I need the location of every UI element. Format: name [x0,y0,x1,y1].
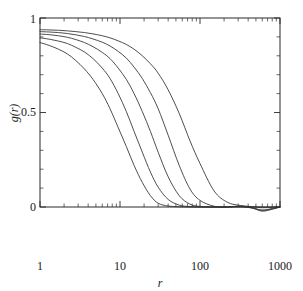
line-plot: 1 0.5 0 1 10 100 1000 r g(r) [0,0,303,291]
curve-5 [40,30,280,207]
curve-series-group [40,30,280,211]
ytick-label-1: 1 [30,12,36,26]
xtick-label-1: 1 [37,259,43,273]
y-axis-label: g(r) [7,104,21,123]
ytick-label-0: 0 [30,200,36,214]
xtick-label-10: 10 [114,259,126,273]
curve-4 [40,32,280,210]
curve-1 [40,43,280,208]
ytick-label-0point5: 0.5 [21,105,36,119]
curve-2 [40,38,280,211]
x-axis-label: r [158,276,163,290]
figure-canvas: 1 0.5 0 1 10 100 1000 r g(r) [0,0,303,291]
xtick-label-100: 100 [191,259,209,273]
xtick-label-1000: 1000 [268,259,292,273]
